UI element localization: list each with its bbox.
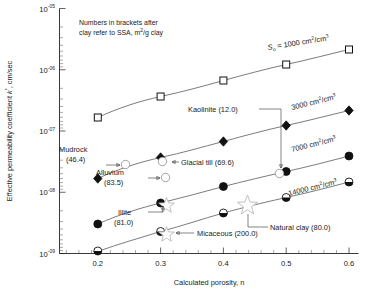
x-tick-label: 0.3 — [155, 259, 166, 268]
natural-clay-star — [237, 195, 257, 214]
label-alluvium: Alluvium — [96, 168, 124, 177]
svg-text:10-07: 10-07 — [39, 126, 55, 136]
x-axis-title: Calculated porosity, n — [174, 278, 245, 287]
data-point — [346, 46, 353, 53]
label-illite-value: (81.0) — [114, 218, 133, 227]
curve-label-14000: 14000 cm2/cm3 — [287, 176, 338, 198]
label-natural-clay: Natural clay (80.0) — [270, 223, 330, 232]
label-illite: Illite — [118, 208, 131, 217]
data-point — [94, 247, 102, 255]
chart-note: Numbers in brackets after clay refer to … — [79, 19, 164, 37]
label-mudrock: Mudrock — [59, 145, 88, 154]
y-axis-title: Effective permeability coefficient k*, c… — [4, 60, 14, 201]
label-micaceous: Micaceous (200.0) — [197, 229, 258, 238]
note-line-1: Numbers in brackets after — [79, 19, 159, 26]
data-point — [220, 77, 227, 84]
natural-clay-leader — [248, 214, 268, 227]
data-point — [219, 137, 227, 146]
label-kaolinite: Kaolinite (12.0) — [188, 105, 238, 114]
permeability-porosity-chart: 10-05 10-06 10-07 10-08 10-09 0.2 0.3 0.… — [0, 0, 372, 297]
x-axis-minor-ticks — [66, 250, 336, 254]
data-point — [282, 121, 290, 130]
x-tick-label: 0.4 — [218, 259, 229, 268]
y-tick-labels: 10-05 10-06 10-07 10-08 10-09 — [39, 3, 55, 258]
data-point — [345, 106, 353, 115]
glacial-till-marker — [158, 157, 166, 165]
x-tick-label: 0.6 — [344, 259, 355, 268]
x-tick-label: 0.5 — [281, 259, 292, 268]
curve-label-3000: 3000 cm2/cm3 — [290, 91, 337, 112]
data-point — [283, 61, 290, 68]
svg-text:10-08: 10-08 — [39, 187, 55, 197]
data-point — [94, 114, 101, 121]
axis-frame — [60, 9, 359, 254]
svg-text:10-06: 10-06 — [39, 65, 55, 75]
label-alluvium-value: (83.5) — [104, 178, 123, 187]
annotation-leaders — [106, 109, 283, 235]
alluvium-marker — [161, 173, 169, 181]
note-line-2: clay refer to SSA, m2/g clay — [79, 27, 164, 37]
y-axis-minor-ticks — [60, 27, 64, 251]
data-point — [219, 183, 227, 191]
x-tick-labels: 0.2 0.3 0.4 0.5 0.6 — [93, 259, 355, 268]
label-glacial-till: Glacial till (69.6) — [181, 158, 234, 167]
x-tick-label: 0.2 — [93, 259, 104, 268]
data-point — [157, 93, 164, 100]
kaolinite-marker — [275, 169, 283, 177]
kaolinite-leader — [259, 109, 281, 168]
svg-text:10-05: 10-05 — [39, 3, 55, 13]
data-point — [94, 220, 102, 228]
data-point — [219, 209, 227, 217]
label-mudrock-value: (46.4) — [66, 155, 85, 164]
data-point — [345, 152, 353, 160]
svg-text:10-09: 10-09 — [39, 248, 55, 258]
curve-label-7000: 7000 cm2/cm3 — [290, 133, 337, 154]
data-point — [345, 178, 353, 186]
curve-label-so-1000: So = 1000 cm2/cm3 — [267, 32, 330, 53]
chart-svg: 10-05 10-06 10-07 10-08 10-09 0.2 0.3 0.… — [0, 0, 372, 297]
